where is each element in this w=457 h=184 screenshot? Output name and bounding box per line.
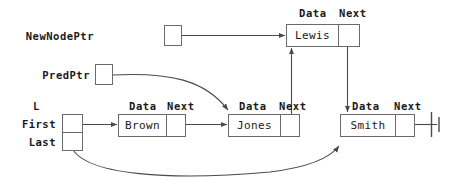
- pointer-box-newnodeptr[interactable]: [164, 25, 182, 46]
- arrow-last-to-smith: [70, 143, 339, 176]
- node-brown[interactable]: Brown: [118, 114, 186, 137]
- pointer-label-predptr: PredPtr: [22, 69, 90, 81]
- linked-list-diagram: NewNodePtr PredPtr L First Last Data Nex…: [0, 0, 457, 184]
- smith-data-field-label: Data: [352, 100, 380, 112]
- diagram-connectors: [0, 0, 457, 184]
- list-header-label-last: Last: [4, 136, 56, 148]
- jones-data-cell: Jones: [229, 115, 281, 136]
- list-header-cell-divider: [62, 132, 83, 133]
- jones-next-cell[interactable]: [281, 115, 299, 136]
- smith-next-field-label: Next: [394, 100, 422, 112]
- jones-data-field-label: Data: [239, 100, 267, 112]
- brown-data-cell: Brown: [119, 115, 167, 136]
- list-header-name: L: [33, 100, 40, 112]
- brown-next-field-label: Next: [167, 100, 195, 112]
- node-smith[interactable]: Smith: [340, 114, 415, 137]
- lewis-next-field-label: Next: [339, 7, 367, 19]
- pointer-box-predptr[interactable]: [95, 64, 113, 85]
- smith-next-cell[interactable]: [396, 115, 414, 136]
- list-header-label-first: First: [4, 118, 56, 130]
- lewis-next-cell[interactable]: [339, 25, 359, 46]
- smith-data-cell: Smith: [341, 115, 396, 136]
- lewis-data-cell: Lewis: [287, 25, 339, 46]
- node-jones[interactable]: Jones: [228, 114, 300, 137]
- jones-next-field-label: Next: [279, 100, 307, 112]
- list-header-box[interactable]: [62, 114, 83, 151]
- brown-data-field-label: Data: [129, 100, 157, 112]
- lewis-data-field-label: Data: [299, 7, 327, 19]
- brown-next-cell[interactable]: [167, 115, 185, 136]
- node-lewis[interactable]: Lewis: [286, 24, 360, 47]
- pointer-label-newnodeptr: NewNodePtr: [22, 30, 94, 42]
